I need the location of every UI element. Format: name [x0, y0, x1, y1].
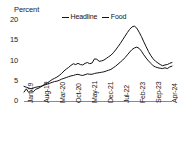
y-axis-tick-20: 20 — [6, 16, 18, 24]
x-axis-tick-6: Jul-22 — [123, 85, 131, 103]
y-axis-title: Percent — [14, 5, 39, 14]
y-axis-tick-5: 5 — [6, 77, 18, 85]
y-axis-tick-0: 0 — [6, 97, 18, 105]
x-axis-tick-5: Dec-21 — [107, 82, 115, 103]
x-axis-tick-7: Feb-23 — [139, 82, 147, 103]
x-axis-tick-0: Jan-19 — [27, 83, 35, 103]
x-axis-tick-4: May-21 — [91, 81, 99, 103]
line-marker-icon — [62, 17, 69, 18]
x-axis-tick-8: Sep-23 — [155, 82, 163, 103]
x-axis-tick-1: Aug-19 — [43, 82, 51, 103]
y-axis-tick-10: 10 — [6, 57, 18, 65]
x-axis-tick-3: Oct-20 — [75, 83, 83, 103]
inflation-line-chart: Percent 20 15 10 5 0 Headline Food Jan-1… — [0, 0, 178, 143]
x-axis-labels: Jan-19 Aug-19 Mar-20 Oct-20 May-21 Dec-2… — [24, 103, 172, 143]
x-axis-tick-2: Mar-20 — [59, 82, 67, 103]
x-axis-tick-9: Apr-24 — [171, 83, 178, 103]
y-axis-tick-15: 15 — [6, 36, 18, 44]
line-marker-icon — [102, 17, 109, 18]
